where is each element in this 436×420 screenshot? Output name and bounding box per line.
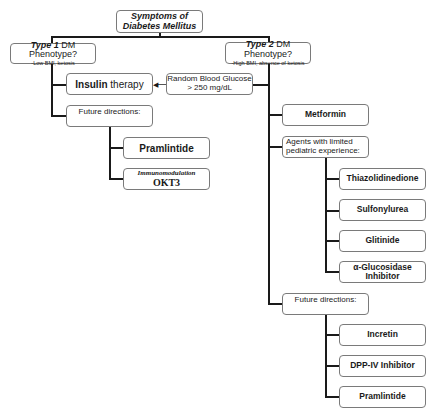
- insulin-therapy-node: Insulin therapy: [66, 73, 153, 95]
- random-glucose-node: Random Blood Glucose > 250 mg/dL: [166, 73, 253, 95]
- insulin-rest: therapy: [108, 79, 144, 90]
- insulin-bold: Insulin: [75, 79, 107, 90]
- type2-metformin-branch: [268, 114, 282, 116]
- type2-glucose-branch: [252, 84, 268, 86]
- root-line2: Diabetes Mellitus: [123, 22, 197, 32]
- sulfonylurea-node: Sulfonylurea: [339, 199, 426, 221]
- metformin-label: Metformin: [305, 110, 346, 119]
- incretin-node: Incretin: [339, 324, 426, 346]
- glucose-arrow-line: [157, 84, 166, 85]
- glucose-line2: > 250 mg/dL: [187, 84, 232, 93]
- type1-label: Type 1: [31, 40, 59, 50]
- agents-branch-1: [325, 178, 339, 180]
- type2-future-trunk: [325, 314, 327, 397]
- agents-branch-3: [325, 240, 339, 242]
- type1-pramlintide-node: Pramlintide: [123, 137, 210, 159]
- agents-trunk: [325, 157, 327, 272]
- alpha-glucosidase-line2: Inhibitor: [366, 272, 400, 281]
- type1-future-trunk: [109, 126, 111, 179]
- type2-agents-branch: [268, 146, 282, 148]
- glitinide-label: Glitinide: [366, 236, 400, 245]
- alpha-glucosidase-node: α-Glucosidase Inhibitor: [339, 261, 426, 283]
- type1-future-label: Future directions:: [79, 108, 141, 117]
- type1-okt3-branch: [109, 178, 123, 180]
- okt3-node: Immunomodulation OKT3: [123, 168, 210, 190]
- type2-label: Type 2: [246, 39, 274, 49]
- agents-line2: pediatric experience:: [286, 147, 360, 156]
- type2-phenotype-node: Type 2 DM Phenotype? -High BMI, absence …: [225, 42, 311, 64]
- root-node: Symptoms of Diabetes Mellitus: [116, 10, 203, 33]
- type2-future-branch: [268, 303, 282, 305]
- agents-node: Agents with limited pediatric experience…: [282, 136, 369, 158]
- dpp4-inhibitor-label: DPP-IV Inhibitor: [350, 361, 415, 370]
- future-branch-2: [325, 365, 339, 367]
- arrow-left-icon: ◀: [153, 81, 158, 88]
- glitinide-node: Glitinide: [339, 230, 426, 252]
- immunomodulation-label: Immunomodulation: [138, 170, 196, 178]
- type2-subtitle: -High BMI, absence of ketosis: [231, 60, 304, 66]
- agents-branch-4: [325, 271, 339, 273]
- type1-insulin-branch: [51, 84, 66, 86]
- dpp4-inhibitor-node: DPP-IV Inhibitor: [339, 355, 426, 377]
- thiazolidinedione-label: Thiazolidinedione: [347, 174, 419, 183]
- type1-subtitle: -Low BMI, ketosis: [31, 60, 74, 66]
- sulfonylurea-label: Sulfonylurea: [357, 205, 408, 214]
- okt3-label: OKT3: [153, 177, 180, 188]
- type2-pramlintide-label: Pramlintide: [359, 392, 405, 401]
- type1-pramlintide-label: Pramlintide: [139, 143, 193, 154]
- root-horizontal: [51, 36, 269, 38]
- metformin-node: Metformin: [282, 104, 369, 126]
- future-branch-1: [325, 334, 339, 336]
- future-branch-3: [325, 396, 339, 398]
- agents-branch-2: [325, 210, 339, 212]
- type2-trunk: [268, 36, 270, 304]
- thiazolidinedione-node: Thiazolidinedione: [339, 168, 426, 190]
- type1-pram-branch: [109, 147, 123, 149]
- type2-future-node: Future directions:: [282, 293, 369, 315]
- type1-phenotype-node: Type 1 DM Phenotype? -Low BMI, ketosis: [10, 43, 96, 64]
- type2-future-label: Future directions:: [295, 296, 357, 305]
- type1-future-branch: [51, 115, 66, 117]
- incretin-label: Incretin: [367, 330, 398, 339]
- type1-future-node: Future directions:: [66, 105, 153, 127]
- type2-pramlintide-node: Pramlintide: [339, 386, 426, 408]
